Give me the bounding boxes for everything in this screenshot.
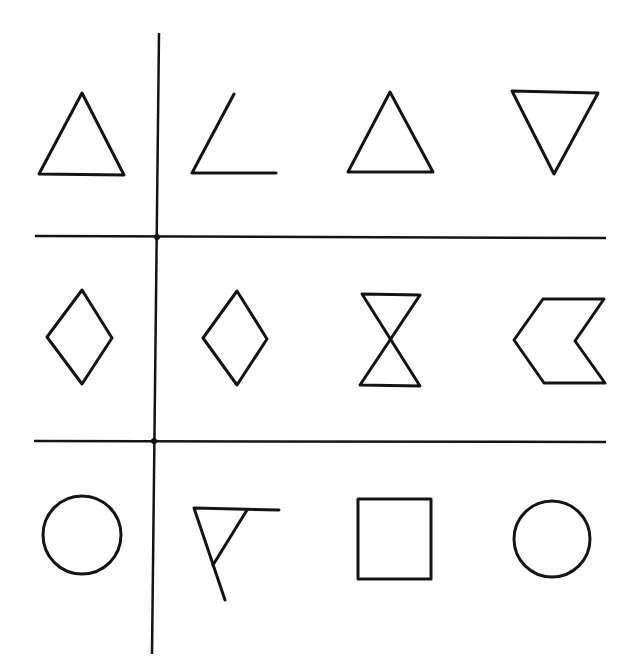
cell-r2-c4-chevron-arrow-left-icon: [514, 299, 605, 383]
horizontal-divider-bottom: [34, 441, 606, 442]
cell-r1-c1-upright-triangle-icon: [39, 93, 124, 175]
cell-r2-c2-rhombus-icon: [203, 291, 267, 385]
open-triangle-with-extended-lines-inner-stroke: [213, 510, 247, 565]
hourglass-icon: [360, 294, 420, 386]
cell-r1-c3-upright-triangle-icon: [348, 92, 433, 172]
chevron-arrow-left-icon: [514, 299, 605, 383]
horizontal-divider-top: [35, 236, 606, 238]
cell-r1-c4-inverted-triangle-icon: [512, 91, 598, 174]
grid-junction-dot: [154, 234, 160, 240]
grid-junction-dot: [151, 438, 157, 444]
cell-r1-c2-open-angle-icon: [192, 94, 276, 173]
circle-icon: [514, 501, 590, 577]
inverted-triangle-icon: [512, 91, 598, 174]
row-1: [39, 91, 598, 175]
cell-r2-c1-rhombus-icon: [47, 290, 112, 384]
cell-r3-c2-open-triangle-with-extended-lines-icon: [194, 508, 279, 600]
rhombus-icon: [203, 291, 267, 385]
square-icon: [358, 499, 431, 579]
upright-triangle-icon: [39, 93, 124, 175]
shape-matrix-figure: [0, 0, 634, 667]
upright-triangle-icon: [348, 92, 433, 172]
cell-r3-c3-square-icon: [358, 499, 431, 579]
row-3: [43, 496, 590, 600]
open-triangle-with-extended-lines-icon: [194, 508, 279, 600]
cell-r3-c4-circle-icon: [514, 501, 590, 577]
shapes: [39, 91, 605, 600]
cell-r3-c1-circle-icon: [43, 496, 121, 574]
cell-r2-c3-hourglass-icon: [360, 294, 420, 386]
shape-matrix-canvas: [0, 0, 634, 667]
row-2: [47, 290, 605, 386]
rhombus-icon: [47, 290, 112, 384]
vertical-divider: [152, 33, 159, 654]
circle-icon: [43, 496, 121, 574]
open-angle-icon: [192, 94, 276, 173]
